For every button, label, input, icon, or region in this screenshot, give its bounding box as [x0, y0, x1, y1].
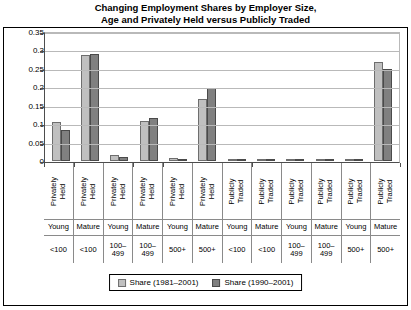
bar	[345, 159, 354, 161]
bar-group	[310, 34, 339, 161]
x-axis-age-label: Mature	[312, 220, 341, 236]
chart-title: Changing Employment Shares by Employer S…	[0, 2, 411, 26]
x-axis-category-column: PrivatelyHeldYoung100–499	[104, 163, 134, 263]
y-axis-tick-label: 0.15	[4, 103, 44, 111]
x-axis-size-label: <100	[223, 236, 252, 263]
x-axis-age-label: Young	[342, 220, 371, 236]
x-axis-ownership-label: PubliclyTraded	[342, 163, 371, 220]
rotated-text: PubliclyTraded	[318, 178, 335, 204]
x-axis-category-column: PubliclyTradedMature100–499	[312, 163, 342, 263]
x-axis-age-label: Mature	[371, 220, 400, 236]
x-axis-ownership-label: PubliclyTraded	[371, 163, 400, 220]
bar	[266, 159, 275, 161]
x-axis-age-label: Young	[282, 220, 311, 236]
x-axis-age-label: Young	[163, 220, 192, 236]
x-axis-category-column: PubliclyTradedMature<100	[252, 163, 282, 263]
x-axis-size-label: 500+	[342, 236, 371, 263]
bar	[383, 69, 392, 162]
rotated-text: PrivatelyHeld	[139, 177, 156, 206]
chart-title-line-1: Changing Employment Shares by Employer S…	[0, 2, 411, 14]
bar-group	[251, 34, 280, 161]
y-axis-tick-label: 0.35	[4, 29, 44, 37]
chart-legend: Share (1981–2001)Share (1990–2001)	[109, 274, 303, 291]
bar	[119, 157, 128, 161]
bar	[237, 159, 246, 161]
bar-group	[193, 34, 222, 161]
x-axis-ownership-label: PrivatelyHeld	[133, 163, 162, 220]
x-axis-ownership-label: PubliclyTraded	[252, 163, 281, 220]
legend-item[interactable]: Share (1990–2001)	[213, 278, 294, 287]
x-axis-category-column: PrivatelyHeldMature<100	[74, 163, 104, 263]
bar-group	[46, 34, 75, 161]
bar	[374, 62, 383, 162]
plot-area	[44, 32, 400, 163]
x-axis-size-label: 500+	[193, 236, 222, 263]
bar	[257, 159, 266, 161]
x-axis-age-label: Mature	[193, 220, 222, 236]
x-axis-age-label: Mature	[74, 220, 103, 236]
gridline	[45, 51, 399, 52]
bar-group	[105, 34, 134, 161]
legend-label: Share (1990–2001)	[225, 278, 294, 287]
x-axis-size-label: <100	[252, 236, 281, 263]
bar	[325, 159, 334, 161]
x-axis-category-column: PrivatelyHeldYoung<100	[44, 163, 74, 263]
x-axis-label-table: PrivatelyHeldYoung<100PrivatelyHeldMatur…	[44, 163, 400, 263]
bar	[52, 122, 61, 161]
y-axis-tick-label: 0.3	[4, 47, 44, 55]
bar-group	[134, 34, 163, 161]
x-axis-ownership-label: PrivatelyHeld	[104, 163, 133, 220]
legend-swatch	[118, 279, 126, 287]
y-axis-tick-label: 0.2	[4, 84, 44, 92]
x-axis-age-label: Young	[104, 220, 133, 236]
rotated-text: PrivatelyHeld	[80, 177, 97, 206]
chart-title-line-2: Age and Privately Held versus Publicly T…	[0, 14, 411, 26]
x-axis-ownership-label: PrivatelyHeld	[163, 163, 192, 220]
x-axis-size-label: 100–499	[133, 236, 162, 263]
bar	[140, 121, 149, 161]
bar	[316, 159, 325, 161]
rotated-text: PrivatelyHeld	[169, 177, 186, 206]
bar	[354, 159, 363, 161]
rotated-text: PubliclyTraded	[377, 178, 394, 204]
chart-screenshot: Changing Employment Shares by Employer S…	[0, 0, 411, 310]
x-axis-size-label: 100–499	[282, 236, 311, 263]
bar	[198, 99, 207, 161]
gridline	[45, 33, 399, 34]
y-axis-tick-label: 0.05	[4, 140, 44, 148]
x-axis-size-label: 100–499	[104, 236, 133, 263]
gridline	[45, 144, 399, 145]
bar	[295, 159, 304, 161]
x-axis-size-label: 500+	[163, 236, 192, 263]
x-axis-category-column: PubliclyTradedYoung500+	[342, 163, 372, 263]
x-axis-age-label: Mature	[252, 220, 281, 236]
x-axis-size-label: 100–499	[312, 236, 341, 263]
bar-group	[339, 34, 368, 161]
rotated-text: PubliclyTraded	[258, 178, 275, 204]
rotated-text: PubliclyTraded	[228, 178, 245, 204]
x-axis-ownership-label: PubliclyTraded	[282, 163, 311, 220]
x-axis-age-label: Mature	[133, 220, 162, 236]
gridline	[45, 107, 399, 108]
x-axis-age-label: Young	[223, 220, 252, 236]
bar-group	[222, 34, 251, 161]
bar	[110, 155, 119, 161]
rotated-text: PubliclyTraded	[288, 178, 305, 204]
x-axis-ownership-label: PubliclyTraded	[312, 163, 341, 220]
gridline	[45, 70, 399, 71]
x-axis-size-label: <100	[74, 236, 103, 263]
x-axis-size-label: <100	[44, 236, 73, 263]
x-axis-category-column: PubliclyTradedYoung100–499	[282, 163, 312, 263]
legend-item[interactable]: Share (1981–2001)	[118, 278, 199, 287]
rotated-text: PrivatelyHeld	[199, 177, 216, 206]
bar	[169, 158, 178, 161]
x-axis-category-column: PrivatelyHeldMature500+	[193, 163, 223, 263]
x-axis-age-label: Young	[44, 220, 73, 236]
legend-label: Share (1981–2001)	[130, 278, 199, 287]
bar	[178, 159, 187, 161]
x-axis-category-column: PubliclyTradedMature500+	[371, 163, 400, 263]
x-axis-ownership-label: PrivatelyHeld	[44, 163, 73, 220]
bar	[228, 159, 237, 161]
bar-group	[281, 34, 310, 161]
x-axis-ownership-label: PrivatelyHeld	[193, 163, 222, 220]
